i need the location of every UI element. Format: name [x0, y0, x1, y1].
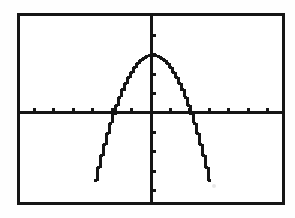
curve-pixel	[198, 133, 201, 145]
curve-pixel	[123, 83, 126, 91]
curve-pixel	[102, 144, 105, 156]
curve-pixel	[129, 72, 132, 78]
curve-pixel	[174, 72, 177, 78]
curve-pixel	[111, 113, 114, 123]
curve-pixel	[186, 97, 189, 106]
curve-pixel	[207, 167, 210, 181]
curve-pixel	[99, 155, 102, 168]
curve-pixel	[114, 105, 117, 115]
curve-pixel	[189, 105, 192, 115]
curve-pixel	[177, 77, 180, 84]
curve-pixel	[183, 89, 186, 97]
curve-pixel	[117, 97, 120, 106]
curve-pixel	[192, 113, 195, 123]
graph-canvas	[20, 16, 282, 202]
scan-artifact	[212, 184, 216, 188]
curve-pixel	[195, 123, 198, 134]
curve-pixel	[156, 55, 159, 57]
curve-pixel	[135, 63, 138, 68]
curve-pixel	[165, 60, 168, 64]
curve-pixel	[180, 83, 183, 91]
plot-area	[20, 16, 282, 202]
curve-pixel	[132, 67, 135, 73]
curve-pixel	[108, 123, 111, 134]
curve-pixel	[201, 144, 204, 156]
curve-pixel	[120, 89, 123, 97]
curve-pixel	[105, 133, 108, 145]
calculator-screen	[0, 0, 295, 218]
curve-pixel	[151, 54, 154, 57]
curve-pixel	[138, 60, 141, 64]
curve-pixel	[162, 58, 165, 61]
curve-pixel	[159, 56, 162, 59]
curve-pixel	[171, 67, 174, 73]
curve-pixel	[204, 155, 207, 168]
curve-pixel	[168, 63, 171, 68]
curve-pixel	[144, 56, 147, 59]
curve-pixel	[147, 55, 150, 57]
axes-layer	[20, 16, 282, 202]
curve-pixel	[141, 58, 144, 61]
plot-frame	[17, 13, 285, 205]
curve-pixel	[96, 167, 99, 181]
curve-pixel	[126, 77, 129, 84]
